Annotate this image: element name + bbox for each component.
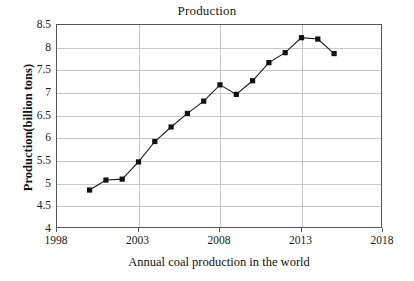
data-point-marker — [250, 78, 255, 83]
data-point-marker — [332, 51, 337, 56]
data-point-marker — [87, 187, 92, 192]
series-markers-production — [87, 35, 337, 193]
data-point-marker — [283, 50, 288, 55]
chart-title: Production — [0, 3, 414, 19]
chart-figure: Production Production(billion tons) 44.5… — [0, 0, 414, 281]
data-point-marker — [299, 35, 304, 40]
data-point-marker — [136, 159, 141, 164]
x-axis-label: Annual coal production in the world — [56, 255, 382, 270]
data-point-marker — [185, 111, 190, 116]
x-tick-label: 2008 — [192, 234, 246, 246]
series-line-production — [90, 38, 335, 190]
x-tick-label: 2018 — [355, 234, 409, 246]
data-point-marker — [201, 99, 206, 104]
x-tick-label: 2003 — [111, 234, 165, 246]
data-series-layer — [57, 25, 383, 229]
data-point-marker — [315, 36, 320, 41]
data-point-marker — [103, 177, 108, 182]
y-tick-label: 4 — [7, 222, 51, 234]
data-point-marker — [120, 177, 125, 182]
data-point-marker — [217, 82, 222, 87]
data-point-marker — [234, 92, 239, 97]
x-tick-label: 2013 — [274, 234, 328, 246]
plot-area — [56, 24, 382, 228]
data-point-marker — [169, 124, 174, 129]
x-tick-label: 1998 — [29, 234, 83, 246]
data-point-marker — [152, 139, 157, 144]
y-axis-label: Production(billion tons) — [21, 38, 36, 218]
y-tick-label: 8.5 — [7, 18, 51, 30]
data-point-marker — [266, 60, 271, 65]
